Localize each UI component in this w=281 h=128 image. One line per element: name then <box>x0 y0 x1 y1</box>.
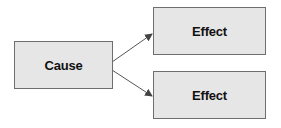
effect-label-top: Effect <box>192 24 227 39</box>
cause-label: Cause <box>44 58 82 73</box>
arrow-cause-to-effect-top <box>112 34 152 62</box>
effect-label-bottom: Effect <box>192 88 227 103</box>
effect-node-top: Effect <box>153 7 266 55</box>
effect-node-bottom: Effect <box>153 71 266 119</box>
arrow-cause-to-effect-bottom <box>112 70 152 96</box>
cause-node: Cause <box>14 41 113 89</box>
